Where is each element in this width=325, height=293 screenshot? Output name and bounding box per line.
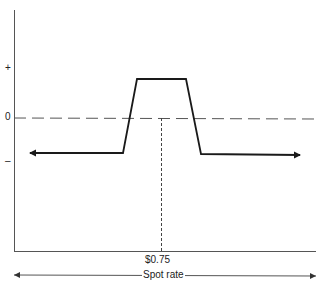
- chart-canvas: [0, 0, 325, 293]
- y-tick-minus: –: [5, 156, 11, 166]
- zero-dashed-line: [14, 118, 316, 119]
- payoff-line: [30, 79, 300, 155]
- x-tick-strike: $0.75: [145, 255, 170, 265]
- y-tick-zero: 0: [5, 112, 11, 122]
- x-axis-label: Spot rate: [142, 270, 185, 280]
- y-tick-plus: +: [5, 63, 11, 73]
